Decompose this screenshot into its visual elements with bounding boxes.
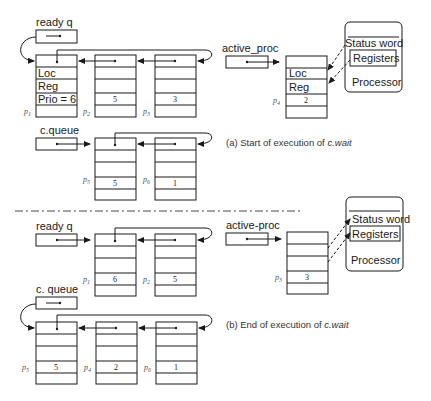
pcb-prio-value: 6 (113, 275, 117, 284)
processor-label: Processor (351, 254, 401, 266)
ready-queue-label: ready q (36, 16, 73, 28)
pcb-p5: 5 p5 (82, 138, 136, 200)
caption-a: (a) Start of execution of c.wait (226, 137, 352, 148)
processor-label: Processor (352, 76, 402, 88)
status-word: Status word (352, 213, 410, 225)
pcb-prio-value: 2 (114, 363, 118, 372)
active-proc-label: active-proc (226, 219, 280, 231)
pcb-field-reg: Reg (289, 81, 309, 93)
process-queue-diagram: ready q Loc Reg Prio = 6 p1 5 p2 (0, 0, 431, 401)
cqueue-head-arrow (21, 304, 36, 328)
pcb-p2: 5 p2 (82, 55, 136, 117)
pcb-prio-value: 5 (113, 179, 117, 188)
pcb-p6: 1 p6 (143, 322, 197, 384)
pcb-field-loc: Loc (289, 67, 307, 79)
caption-b: (b) End of execution of c.wait (226, 319, 349, 330)
pcb-p6: 1 p6 (142, 138, 196, 200)
pcb-prio-value: 5 (54, 363, 58, 372)
processor-b: Status word Registers Processor (328, 197, 410, 271)
pcb-label: p3 (274, 273, 282, 283)
pcb-prio-value: 1 (173, 179, 177, 188)
pcb-prio-value: 1 (174, 363, 178, 372)
pcb-label: p6 (143, 363, 151, 373)
pcb-label: p2 (82, 107, 90, 117)
cqueue-label: c.queue (40, 124, 79, 136)
pcb-prio-value: 5 (113, 95, 117, 104)
status-word: Status word (345, 37, 403, 49)
pcb-prio-value: 3 (173, 95, 177, 104)
pcb-p3: 3 p3 (142, 55, 196, 117)
pcb-prio-value: 2 (304, 96, 308, 105)
pcb-prio-value: 5 (173, 275, 177, 284)
pcb-label: p5 (21, 363, 29, 373)
figure-b: ready q 6 p1 5 p2 active-proc (21, 197, 410, 384)
pcb-prio-value: 3 (305, 273, 309, 282)
pcb-p4: Loc Reg 2 p4 (272, 56, 327, 118)
pcb-p5: 5 p5 (21, 322, 77, 384)
pcb-p3: 3 p3 (274, 232, 328, 294)
pcb-p1: 6 p1 (82, 234, 136, 296)
pcb-label: p4 (272, 96, 280, 106)
save-status-arrow (328, 45, 345, 70)
pcb-p1: Loc Reg Prio = 6 p1 (23, 55, 77, 117)
registers: Registers (353, 52, 400, 64)
pcb-label: p3 (142, 107, 150, 117)
pcb-label: p6 (142, 175, 150, 185)
pcb-p2: 5 p2 (142, 234, 196, 296)
pcb-field-prio: Prio = 6 (38, 93, 76, 105)
ready-queue-label: ready q (36, 220, 73, 232)
active-proc-label: active_proc (222, 42, 279, 54)
pcb-p4: 2 p4 (83, 322, 137, 384)
processor-a: Status word Registers Processor (328, 22, 403, 92)
pcb-label: p2 (142, 275, 150, 285)
registers: Registers (352, 228, 399, 240)
pcb-label: p4 (83, 363, 91, 373)
pcb-label: p1 (23, 107, 31, 117)
figure-a: ready q Loc Reg Prio = 6 p1 5 p2 (21, 16, 403, 200)
ready-queue-head-arrow (21, 37, 36, 61)
pcb-field-reg: Reg (38, 80, 58, 92)
pcb-label: p5 (82, 175, 90, 185)
pcb-field-loc: Loc (38, 67, 56, 79)
pcb-label: p1 (82, 275, 90, 285)
cqueue-label: c. queue (36, 283, 78, 295)
